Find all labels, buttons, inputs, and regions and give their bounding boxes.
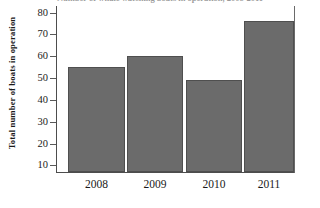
bar <box>244 21 294 172</box>
x-axis-tick-label: 2009 <box>127 177 183 191</box>
bar <box>127 56 183 172</box>
bar <box>186 80 242 172</box>
x-axis-tick-label: 2008 <box>68 177 125 191</box>
x-axis-tick-label: 2010 <box>186 177 242 191</box>
bar <box>68 67 125 172</box>
bar-chart-figure: Number of whale watching boats in operat… <box>0 0 320 208</box>
plot-area: 2008200920102011 <box>0 0 320 208</box>
x-axis-tick-label: 2011 <box>244 177 294 191</box>
